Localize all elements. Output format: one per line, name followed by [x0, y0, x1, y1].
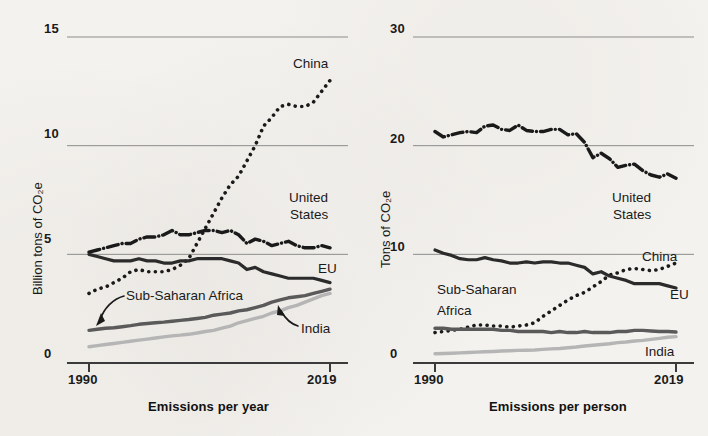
series-label-left-india: India [301, 321, 330, 336]
y-tick-label-right-0: 0 [390, 346, 397, 361]
chart-panel-emissions-per-person: 30 20 10 0 1990 2019 Tons of CO₂e Emissi… [354, 0, 708, 436]
x-tick-label-right-1990: 1990 [414, 372, 444, 387]
y-tick-label-left-10: 10 [44, 126, 59, 141]
y-axis-title-right: Tons of CO₂e [378, 191, 393, 268]
series-label-right-india: India [645, 344, 674, 359]
series-label-right-sub-saharan-africa-line1: Sub-Saharan [437, 282, 517, 297]
series-label-left-china: China [293, 56, 328, 71]
chart-canvas-right [354, 0, 708, 436]
chart-panel-emissions-per-year: 15 10 5 0 1990 2019 Billion tons of CO₂e… [0, 0, 354, 436]
series-label-right-united-states-line2: States [613, 207, 651, 222]
series-label-left-sub-saharan-africa: Sub-Saharan Africa [126, 288, 243, 303]
y-tick-label-left-0: 0 [44, 346, 51, 361]
series-label-left-eu: EU [318, 261, 337, 276]
x-tick-label-left-2019: 2019 [307, 372, 337, 387]
x-axis-title-right: Emissions per person [489, 399, 627, 414]
x-tick-label-right-2019: 2019 [654, 372, 684, 387]
y-axis-title-left: Billion tons of CO₂e [30, 182, 45, 295]
y-tick-label-left-5: 5 [44, 231, 51, 246]
series-label-right-sub-saharan-africa-line2: Africa [437, 303, 472, 318]
y-tick-label-left-15: 15 [44, 21, 59, 36]
y-tick-label-right-20: 20 [390, 131, 405, 146]
x-tick-label-left-1990: 1990 [68, 372, 98, 387]
two-panel-emissions-figure: 15 10 5 0 1990 2019 Billion tons of CO₂e… [0, 0, 708, 436]
series-label-right-eu: EU [670, 287, 689, 302]
y-tick-label-right-30: 30 [390, 21, 405, 36]
x-axis-title-left: Emissions per year [148, 399, 269, 414]
series-label-left-united-states-line1: United [289, 190, 328, 205]
series-label-right-china: China [642, 249, 677, 264]
series-label-right-united-states-line1: United [612, 190, 651, 205]
series-label-left-united-states-line2: States [290, 207, 328, 222]
